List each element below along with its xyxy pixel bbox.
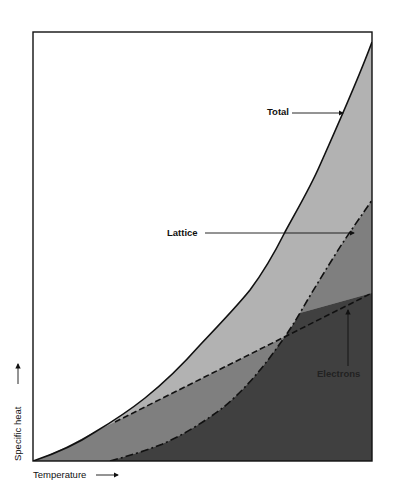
x-axis-label: Temperature <box>33 469 86 480</box>
specific-heat-chart <box>0 0 396 504</box>
y-axis-label: Specific heat <box>12 407 23 461</box>
total-label: Total <box>267 106 289 117</box>
lattice-label: Lattice <box>167 227 198 238</box>
electrons-label: Electrons <box>317 368 360 379</box>
